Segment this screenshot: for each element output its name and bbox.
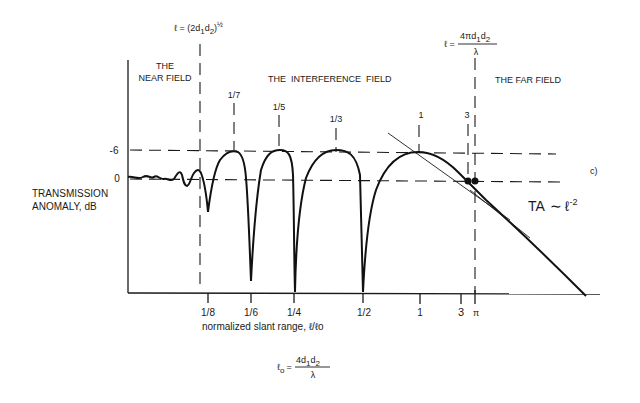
x-axis: [128, 293, 600, 294]
y-axis-title-line1: TRANSMISSION: [32, 188, 108, 199]
intersection-dot-pi: [472, 178, 479, 185]
near-boundary-formula: ℓ = (2d1d2)½: [174, 21, 223, 36]
near-field-label-line2: NEAR FIELD: [138, 73, 192, 83]
panel-label: c): [590, 166, 598, 176]
x-axis-ticks: [208, 290, 475, 304]
peak-label-3: 3: [464, 110, 469, 120]
y-axis-title-line2: ANOMALY, dB: [32, 201, 97, 212]
peak-label-1-7: 1/7: [228, 90, 241, 100]
peak-label-1-5: 1/5: [273, 102, 286, 112]
normalization-numerator: 4d1d2: [296, 355, 320, 368]
x-tick-1-4: 1/4: [287, 307, 301, 318]
far-boundary-formula-denominator: λ: [474, 47, 479, 57]
x-tick-1-6: 1/6: [244, 307, 258, 318]
x-tick-pi: π: [473, 308, 479, 318]
far-field-label: THE FAR FIELD: [495, 75, 562, 85]
peak-label-1: 1: [418, 110, 423, 120]
far-boundary-formula-numerator: 4πd1d2: [460, 31, 491, 44]
y-tick-minus6: -6: [110, 145, 119, 156]
x-tick-1-8: 1/8: [201, 307, 215, 318]
transmission-anomaly-chart: 1/8 1/6 1/4 1/2 1 3 π normalized slant r…: [0, 0, 640, 403]
x-tick-3: 3: [458, 306, 464, 318]
x-tick-1-2: 1/2: [357, 307, 371, 318]
x-axis-title: normalized slant range, ℓ/ℓo: [202, 321, 324, 332]
zero-reference-line: [130, 179, 560, 182]
intersection-dot-3: [465, 178, 472, 185]
transmission-curve: [128, 150, 586, 296]
normalization-denominator: λ: [311, 370, 316, 380]
near-field-label-line1: THE: [156, 61, 174, 71]
asymptote-label: TA∼ℓ-2: [528, 197, 577, 214]
peak-label-1-3: 1/3: [330, 114, 343, 124]
far-boundary-formula-lhs: ℓ =: [444, 39, 455, 49]
x-tick-1: 1: [417, 307, 423, 318]
y-tick-0: 0: [114, 173, 120, 184]
normalization-lhs: ℓo=: [277, 362, 292, 375]
interference-field-label: THE INTERFERENCE FIELD: [268, 74, 392, 84]
asymptote-line-lower: [470, 190, 530, 238]
